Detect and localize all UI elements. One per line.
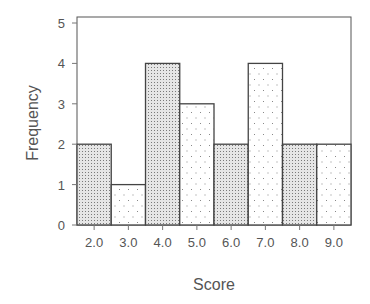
histogram-chart: 012345 2.03.04.05.06.07.08.09.0 Frequenc… <box>0 0 370 304</box>
y-tick-label: 1 <box>58 178 65 193</box>
x-tick-label: 6.0 <box>222 235 240 250</box>
x-tick-label: 5.0 <box>188 235 206 250</box>
x-tick-label: 9.0 <box>325 235 343 250</box>
bar-6.0 <box>214 144 248 225</box>
x-axis: 2.03.04.05.06.07.08.09.0 <box>85 225 343 250</box>
y-tick-label: 2 <box>58 137 65 152</box>
y-tick-label: 5 <box>58 16 65 31</box>
bar-4.0 <box>146 63 180 225</box>
x-tick-label: 7.0 <box>256 235 274 250</box>
bar-5.0 <box>180 104 214 225</box>
x-tick-label: 3.0 <box>119 235 137 250</box>
x-tick-label: 2.0 <box>85 235 103 250</box>
bar-7.0 <box>248 63 282 225</box>
y-axis: 012345 <box>58 16 77 233</box>
x-tick-label: 4.0 <box>154 235 172 250</box>
y-tick-label: 4 <box>58 56 65 71</box>
bar-2.0 <box>77 144 111 225</box>
x-axis-title: Score <box>193 276 235 293</box>
x-tick-label: 8.0 <box>291 235 309 250</box>
y-tick-label: 3 <box>58 97 65 112</box>
y-tick-label: 0 <box>58 218 65 233</box>
bar-8.0 <box>283 144 317 225</box>
bar-3.0 <box>111 185 145 225</box>
bar-9.0 <box>317 144 351 225</box>
y-axis-title: Frequency <box>24 85 41 161</box>
